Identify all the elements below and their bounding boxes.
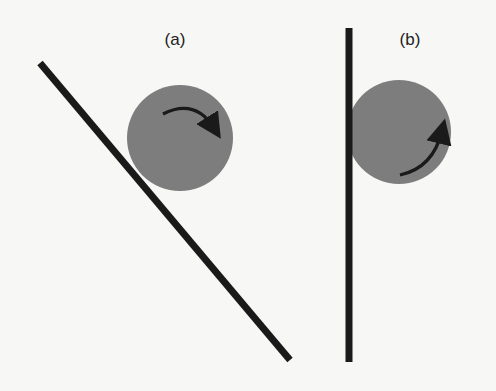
- rolling-ball-diagram: [0, 0, 496, 391]
- panel-a: [40, 63, 290, 360]
- panel-label-b: (b): [400, 30, 421, 50]
- ball-a: [127, 85, 233, 191]
- panel-b: [347, 28, 451, 362]
- panel-label-a: (a): [165, 30, 186, 50]
- ball-b: [347, 80, 451, 184]
